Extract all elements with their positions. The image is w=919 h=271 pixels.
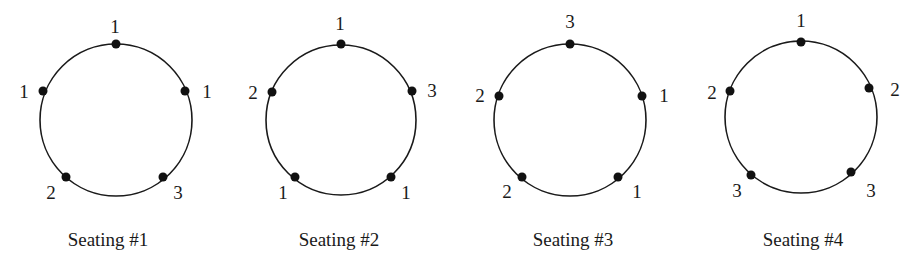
- seat-dot-lower-left: [747, 171, 756, 180]
- seat-label-upper-right: 1: [202, 81, 212, 102]
- seat-dot-top: [797, 38, 806, 47]
- seat-label-upper-left: 2: [475, 85, 485, 106]
- seat-label-lower-right: 1: [632, 181, 642, 202]
- seating-caption: Seating #3: [533, 229, 614, 250]
- seat-dot-top: [337, 40, 346, 49]
- seat-label-upper-left: 1: [19, 81, 29, 102]
- table-circle: [494, 44, 646, 196]
- seating-caption: Seating #1: [68, 229, 149, 250]
- seat-dot-lower-right: [614, 173, 623, 182]
- seat-label-lower-right: 1: [401, 182, 411, 203]
- seat-dot-upper-right: [408, 87, 417, 96]
- seat-dot-upper-left: [495, 92, 504, 101]
- seat-dot-top: [112, 40, 121, 49]
- seat-dot-lower-left: [62, 173, 71, 182]
- seating-2: 1 3 1 1 2 Seating #2: [248, 13, 437, 250]
- seat-label-lower-right: 3: [173, 182, 183, 203]
- seating-caption: Seating #4: [763, 229, 844, 250]
- seat-dot-lower-left: [291, 173, 300, 182]
- seat-label-lower-left: 3: [732, 180, 742, 201]
- seat-dot-lower-right: [387, 173, 396, 182]
- seat-label-top: 3: [565, 11, 575, 32]
- seat-dot-upper-right: [181, 87, 190, 96]
- seating-1: 1 1 3 2 1 Seating #1: [19, 16, 212, 250]
- seating-caption: Seating #2: [299, 229, 380, 250]
- seat-dot-upper-left: [39, 87, 48, 96]
- table-circle: [266, 45, 416, 195]
- seating-diagram: 1 1 3 2 1 Seating #1 1 3 1 1 2 Seating #…: [0, 0, 919, 271]
- seat-dot-top: [566, 40, 575, 49]
- seating-3: 3 1 1 2 2 Seating #3: [475, 11, 669, 250]
- seat-dot-lower-left: [518, 173, 527, 182]
- seat-dot-upper-left: [726, 87, 735, 96]
- seat-label-top: 1: [335, 13, 345, 34]
- seat-dot-upper-left: [268, 88, 277, 97]
- seat-label-lower-left: 2: [46, 182, 56, 203]
- seat-label-upper-right: 3: [427, 80, 437, 101]
- seat-label-upper-left: 2: [248, 82, 258, 103]
- seat-label-lower-left: 1: [278, 182, 288, 203]
- seat-label-upper-right: 1: [659, 85, 669, 106]
- seat-dot-upper-right: [638, 92, 647, 101]
- seat-label-top: 1: [110, 16, 120, 37]
- seat-dot-upper-right: [865, 84, 874, 93]
- seat-dot-lower-right: [847, 168, 856, 177]
- seat-label-lower-right: 3: [866, 180, 876, 201]
- seat-label-upper-left: 2: [707, 82, 717, 103]
- seat-label-lower-left: 2: [502, 181, 512, 202]
- table-circle: [40, 44, 192, 196]
- seating-4: 1 2 3 3 2 Seating #4: [707, 10, 900, 250]
- seat-label-upper-right: 2: [890, 79, 900, 100]
- seat-label-top: 1: [796, 10, 806, 31]
- seat-dot-lower-right: [159, 173, 168, 182]
